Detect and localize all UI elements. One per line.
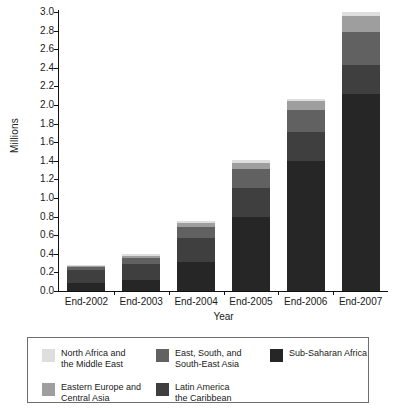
bar-segment [287,101,325,109]
bars-container [59,10,388,291]
x-tick-mark [114,291,115,295]
bar-end-2006 [287,99,325,291]
bar-segment [287,110,325,132]
bar-segment [342,16,380,32]
legend-item: Eastern Europe and Central Asia [42,382,141,403]
y-tick-label: 0.8 [26,212,54,222]
x-tick-label: End-2007 [331,296,391,308]
x-tick-label: End-2006 [276,296,336,308]
x-tick-mark [278,291,279,295]
x-tick-mark [169,291,170,295]
bar-segment [342,94,380,291]
stacked-bar-chart: Millions 3.02.82.62.42.22.01.81.61.41.21… [0,0,402,418]
bar-segment [342,65,380,94]
legend-label: North Africa and the Middle East [61,348,126,369]
legend-swatch [156,349,169,362]
x-tick-mark [333,291,334,295]
bar-end-2007 [342,12,380,291]
x-axis-title: Year [59,311,388,322]
bar-segment [177,227,215,238]
y-axis-tick-labels: 3.02.82.62.42.22.01.81.61.41.21.00.80.60… [26,0,54,300]
legend-item: North Africa and the Middle East [42,348,126,369]
bar-end-2002 [67,265,105,291]
bar-segment [122,264,160,280]
y-tick-label: 3.0 [26,7,54,17]
bar-end-2005 [232,160,270,291]
bar-segment [177,238,215,262]
plot-area: Millions 3.02.82.62.42.22.01.81.61.41.21… [0,0,402,330]
bar-segment [177,262,215,291]
bar-end-2004 [177,221,215,291]
bar-segment [287,161,325,291]
x-tick-label: End-2002 [56,296,116,308]
legend-swatch [270,349,283,362]
y-tick-label: 2.6 [26,44,54,54]
y-tick-label: 0.6 [26,230,54,240]
x-tick-label: End-2005 [221,296,281,308]
y-tick-label: 1.2 [26,174,54,184]
bar-segment [232,169,270,188]
legend-item: Sub-Saharan Africa [270,348,367,362]
bar-segment [287,132,325,161]
y-axis-title: Millions [9,96,20,176]
bar-segment [232,188,270,217]
y-tick-label: 1.0 [26,193,54,203]
y-tick-label: 2.0 [26,100,54,110]
y-tick-label: 1.6 [26,137,54,147]
x-tick-label: End-2003 [111,296,171,308]
y-tick-label: 2.4 [26,63,54,73]
y-tick-label: 0.0 [26,286,54,296]
legend-item: East, South, and South-East Asia [156,348,242,369]
x-tick-label: End-2004 [166,296,226,308]
y-tick-label: 1.4 [26,156,54,166]
legend: North Africa and the Middle EastEast, So… [27,337,369,403]
y-tick-label: 2.8 [26,26,54,36]
legend-swatch [42,349,55,362]
legend-item: Latin America the Caribbean [156,382,232,403]
legend-swatch [156,383,169,396]
bar-segment [122,280,160,291]
y-tick-label: 2.2 [26,81,54,91]
bar-segment [67,270,105,283]
y-tick-label: 1.8 [26,119,54,129]
legend-swatch [42,383,55,396]
bar-segment [232,217,270,291]
legend-label: Latin America the Caribbean [175,382,232,403]
x-axis-category-labels: End-2002End-2003End-2004End-2005End-2006… [59,296,388,310]
x-tick-mark [224,291,225,295]
y-tick-label: 0.4 [26,249,54,259]
bar-segment [342,32,380,65]
bar-segment [67,283,105,291]
legend-label: East, South, and South-East Asia [175,348,242,369]
legend-label: Eastern Europe and Central Asia [61,382,141,403]
y-tick-label: 0.2 [26,267,54,277]
bar-end-2003 [122,254,160,291]
legend-label: Sub-Saharan Africa [289,348,367,359]
